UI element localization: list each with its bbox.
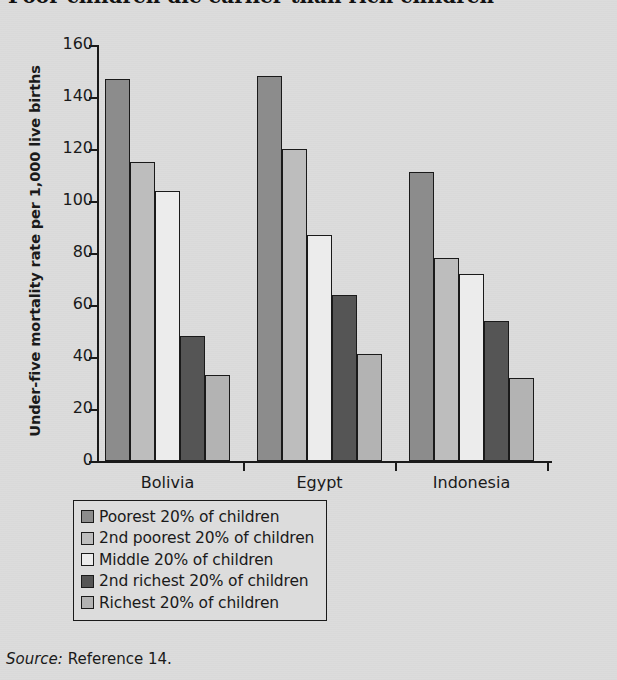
bar-egypt-3 [332, 295, 357, 461]
y-tick-label: 60 [73, 294, 93, 313]
bar-bolivia-0 [105, 79, 130, 461]
legend-item-4: Richest 20% of children [81, 592, 314, 614]
x-tick-mark [547, 462, 549, 471]
y-tick-label: 20 [73, 398, 93, 417]
legend-swatch-icon [81, 510, 94, 523]
source-text: Reference 14. [68, 650, 172, 668]
bar-indonesia-1 [434, 258, 459, 461]
bar-egypt-4 [357, 354, 382, 461]
y-tick-label: 100 [62, 190, 93, 209]
legend-label: Poorest 20% of children [99, 508, 279, 526]
y-tick-label: 0 [83, 450, 93, 469]
source-note: Source: Reference 14. [6, 650, 172, 668]
y-tick-label: 140 [62, 86, 93, 105]
bar-bolivia-1 [130, 162, 155, 461]
bar-egypt-0 [257, 76, 282, 461]
legend-label: 2nd poorest 20% of children [99, 529, 314, 547]
y-axis-title: Under-five mortality rate per 1,000 live… [27, 41, 43, 461]
bar-indonesia-0 [409, 172, 434, 461]
legend-label: Middle 20% of children [99, 551, 273, 569]
y-tick-label: 120 [62, 138, 93, 157]
bar-indonesia-2 [459, 274, 484, 461]
y-tick-label: 80 [73, 242, 93, 261]
x-category-label-bolivia: Bolivia [141, 473, 194, 492]
bar-egypt-1 [282, 149, 307, 461]
bar-bolivia-3 [180, 336, 205, 461]
legend-swatch-icon [81, 575, 94, 588]
legend-swatch-icon [81, 596, 94, 609]
legend-label: Richest 20% of children [99, 594, 279, 612]
legend-item-0: Poorest 20% of children [81, 506, 314, 528]
bar-bolivia-2 [155, 191, 180, 461]
bar-bolivia-4 [205, 375, 230, 461]
legend-item-1: 2nd poorest 20% of children [81, 528, 314, 550]
bar-indonesia-3 [484, 321, 509, 461]
legend-swatch-icon [81, 553, 94, 566]
plot-area: 020406080100120140160 BoliviaEgyptIndone… [97, 45, 567, 461]
legend-swatch-icon [81, 532, 94, 545]
chart-title-clip: Poor children die earlier than rich chil… [0, 0, 617, 9]
legend-label: 2nd richest 20% of children [99, 572, 308, 590]
source-label: Source: [6, 650, 63, 668]
x-category-label-egypt: Egypt [296, 473, 342, 492]
legend-item-3: 2nd richest 20% of children [81, 571, 314, 593]
bars-layer [97, 45, 567, 461]
bar-egypt-2 [307, 235, 332, 461]
y-tick-label: 40 [73, 346, 93, 365]
x-tick-mark [395, 462, 397, 471]
x-axis-line [97, 461, 552, 463]
bar-indonesia-4 [509, 378, 534, 461]
legend: Poorest 20% of children2nd poorest 20% o… [73, 500, 327, 621]
x-category-label-indonesia: Indonesia [433, 473, 510, 492]
y-tick-label: 160 [62, 34, 93, 53]
x-tick-mark [243, 462, 245, 471]
legend-item-2: Middle 20% of children [81, 549, 314, 571]
chart-title: Poor children die earlier than rich chil… [8, 0, 494, 8]
